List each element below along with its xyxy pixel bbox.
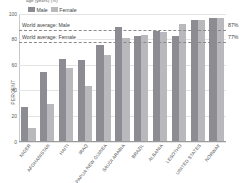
bar-group-brazil[interactable] bbox=[132, 14, 151, 142]
bar-female-saudi-arabia[interactable] bbox=[122, 38, 129, 142]
bar-male-albania[interactable] bbox=[153, 31, 160, 142]
x-label-iraq: IRAQ bbox=[78, 143, 89, 155]
bar-female-united-states[interactable] bbox=[198, 20, 205, 142]
reference-line-female bbox=[19, 42, 226, 43]
bar-female-norway[interactable] bbox=[217, 18, 224, 142]
bar-group-albania[interactable] bbox=[151, 14, 170, 142]
legend-item-male[interactable]: Male bbox=[28, 7, 48, 13]
bar-group-saudi-arabia[interactable] bbox=[113, 14, 132, 142]
bar-male-iraq[interactable] bbox=[78, 60, 85, 142]
bar-group-papua-new-guinea[interactable] bbox=[94, 14, 113, 142]
y-tick-60: 60 bbox=[11, 62, 17, 68]
legend-label-female: Female bbox=[59, 7, 76, 13]
reference-pct-female: 77% bbox=[228, 34, 238, 40]
x-label-niger: NIGER bbox=[19, 143, 32, 158]
bar-male-haiti[interactable] bbox=[59, 59, 66, 142]
chart-legend: Male Female bbox=[28, 7, 77, 13]
legend-swatch-male-icon bbox=[28, 7, 35, 12]
bar-female-papua-new-guinea[interactable] bbox=[104, 55, 111, 142]
bar-female-iraq[interactable] bbox=[85, 86, 92, 142]
bar-group-iraq[interactable] bbox=[75, 14, 94, 142]
x-axis-line bbox=[19, 141, 226, 142]
literacy-bar-chart: age (years) (%) Male Female 0 20 40 60 8… bbox=[0, 0, 251, 183]
bar-group-lesotho[interactable] bbox=[170, 14, 189, 142]
bar-male-norway[interactable] bbox=[209, 18, 216, 142]
x-label-brazil: BRAZIL bbox=[131, 143, 145, 159]
bar-male-brazil[interactable] bbox=[134, 36, 141, 142]
bar-female-albania[interactable] bbox=[160, 32, 167, 142]
reference-label-male: World average: Male bbox=[21, 21, 71, 27]
y-tick-100: 100 bbox=[9, 11, 17, 17]
bar-female-niger[interactable] bbox=[28, 128, 35, 142]
bar-male-afghanistan[interactable] bbox=[40, 72, 47, 142]
bar-female-afghanistan[interactable] bbox=[47, 104, 54, 142]
x-axis-labels: NIGER AFGHANISTAN HAITI IRAQ PAPUA NEW G… bbox=[19, 143, 226, 183]
reference-label-female: World average: Female bbox=[21, 34, 77, 40]
legend-label-male: Male bbox=[37, 7, 48, 13]
bar-female-haiti[interactable] bbox=[66, 68, 73, 142]
bar-female-brazil[interactable] bbox=[141, 35, 148, 143]
y-axis-title: PERCENT bbox=[11, 79, 16, 104]
chart-top-caption: age (years) (%) bbox=[26, 0, 58, 3]
x-label-haiti: HAITI bbox=[58, 143, 70, 156]
bar-male-lesotho[interactable] bbox=[172, 36, 179, 142]
bar-group-united-states[interactable] bbox=[188, 14, 207, 142]
legend-swatch-female-icon bbox=[51, 7, 58, 12]
reference-line-male bbox=[19, 30, 226, 31]
x-label-albania: ALBANIA bbox=[147, 143, 164, 162]
y-tick-80: 80 bbox=[11, 36, 17, 42]
bar-male-niger[interactable] bbox=[21, 107, 28, 142]
bar-group-norway[interactable] bbox=[207, 14, 226, 142]
y-tick-20: 20 bbox=[11, 113, 17, 119]
x-label-norway: NORWAY bbox=[204, 143, 221, 163]
reference-pct-male: 87% bbox=[228, 22, 238, 28]
bar-male-papua-new-guinea[interactable] bbox=[96, 45, 103, 142]
plot-area: 0 20 40 60 80 100 bbox=[19, 14, 226, 142]
bar-male-united-states[interactable] bbox=[191, 20, 198, 142]
y-tick-0: 0 bbox=[14, 139, 17, 145]
bar-male-saudi-arabia[interactable] bbox=[115, 27, 122, 142]
legend-item-female[interactable]: Female bbox=[51, 7, 77, 13]
